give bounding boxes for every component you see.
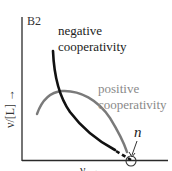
positive-label-line1: positive <box>98 81 167 97</box>
negative-label: negative cooperativity <box>58 23 127 55</box>
negative-label-line1: negative <box>58 23 127 39</box>
y-axis-label: ν/[L] → <box>3 89 17 128</box>
x-axis-label: ν → <box>80 163 100 171</box>
positive-label-line2: cooperativity <box>98 97 167 113</box>
panel-label: B2 <box>27 14 41 29</box>
intercept-label: n <box>134 124 142 141</box>
negative-label-line2: cooperativity <box>58 39 127 55</box>
positive-label: positive cooperativity <box>98 81 167 113</box>
